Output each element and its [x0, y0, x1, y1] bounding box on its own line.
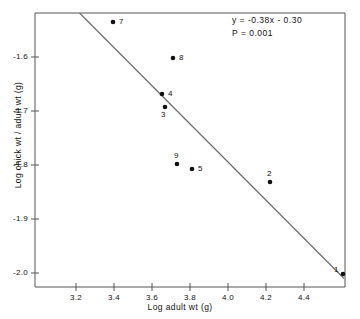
data-point	[111, 20, 116, 25]
point-label-5: 5	[198, 164, 202, 173]
y-tick-label: -1.9	[4, 214, 28, 223]
point-label-7: 7	[119, 17, 123, 26]
axes-frame	[35, 13, 345, 287]
x-tick-label: 3.8	[176, 293, 204, 302]
point-label-1: 1	[334, 265, 338, 274]
y-tick-label: -2.0	[4, 268, 28, 277]
point-label-8: 8	[179, 53, 183, 62]
x-tick-label: 3.6	[138, 293, 166, 302]
x-tick-label: 4.4	[290, 293, 318, 302]
x-tick-label: 4.0	[214, 293, 242, 302]
scatter-plot-figure: -1.6 -1.7 -1.8 -1.9 -2.0 3.2 3.4 3.6 3.8…	[0, 0, 360, 319]
data-point	[190, 167, 195, 172]
point-label-9: 9	[174, 151, 178, 160]
regression-line	[80, 13, 345, 279]
data-point	[163, 105, 168, 110]
x-tick-label: 3.2	[62, 293, 90, 302]
data-point	[175, 162, 180, 167]
regression-equation: y = -0.38x - 0.30	[232, 14, 302, 27]
point-label-4: 4	[168, 89, 172, 98]
data-point	[160, 92, 165, 97]
x-tick-label: 3.4	[100, 293, 128, 302]
point-label-2: 2	[267, 169, 271, 178]
plot-canvas	[0, 0, 360, 319]
data-point	[171, 56, 176, 61]
y-axis-title: Log chick wt / adult wt (g)	[13, 55, 23, 215]
x-axis-title: Log adult wt (g)	[0, 302, 360, 312]
point-label-3: 3	[161, 110, 165, 119]
data-point	[268, 180, 273, 185]
regression-annotation: y = -0.38x - 0.30 P = 0.001	[232, 14, 302, 40]
data-point-group	[111, 20, 346, 277]
p-value-text: P = 0.001	[232, 27, 302, 40]
x-tick-label: 4.2	[252, 293, 280, 302]
data-point	[341, 272, 346, 277]
